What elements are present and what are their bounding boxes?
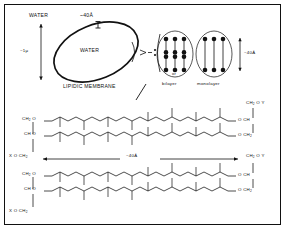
upper-right-head-line-3: O CH2	[238, 133, 252, 138]
figure-canvas: WATER ~1μ ~40Å WATER LIPIDIC MEMBRANE or…	[0, 0, 287, 231]
molecule-drawings	[0, 0, 287, 231]
upper-molecule	[33, 108, 253, 152]
lower-molecule	[33, 163, 253, 207]
lower-left-head-line-1: CH2 O	[22, 172, 36, 177]
lower-left-head-line-3: X O CH2	[9, 209, 28, 214]
upper-right-head-line-1: CH2 O Y	[246, 101, 265, 106]
lower-left-head-line-2: CH O	[24, 187, 36, 192]
lower-right-head-line-3: O CH2	[238, 188, 252, 193]
molecule-span-dimension	[43, 157, 238, 160]
lower-right-head-line-2: O CH	[238, 173, 250, 178]
label-molecule-span: ~40Å	[126, 154, 137, 158]
upper-right-head-line-2: O CH	[238, 118, 250, 123]
upper-left-head-line-3: X O CH2	[9, 154, 28, 159]
upper-left-head-line-2: CH O	[24, 132, 36, 137]
lower-right-head-line-1: CH2 O Y	[246, 154, 265, 159]
upper-left-head-line-1: CH2 O	[22, 117, 36, 122]
